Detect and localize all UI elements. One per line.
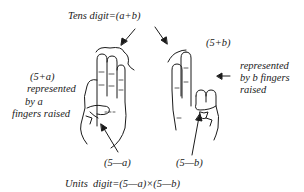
right-five-plus-b-label: (5+b) bbox=[206, 37, 231, 48]
left-five-plus-a-label: (5+a) bbox=[30, 71, 55, 82]
arrow-to-left-thumb-icon bbox=[101, 124, 118, 152]
right-five-minus-b-label: (5—b) bbox=[176, 157, 203, 168]
left-by-a-label: by a bbox=[25, 96, 43, 107]
right-brace-icon bbox=[168, 50, 186, 62]
tens-digit-label: Tens digit=(a+b) bbox=[68, 10, 140, 21]
right-hand-icon bbox=[172, 52, 219, 140]
finger-multiplication-illustration bbox=[0, 0, 304, 192]
left-brace-icon bbox=[96, 48, 134, 71]
left-hand-icon bbox=[81, 54, 126, 148]
right-by-b-fingers-label: by b fingers bbox=[240, 72, 290, 83]
left-represented-label: represented bbox=[27, 83, 76, 94]
arrow-to-left-hand-icon bbox=[121, 29, 135, 45]
units-digit-formula: Units digit=(5—a)×(5—b) bbox=[65, 178, 180, 189]
right-raised-label: raised bbox=[240, 84, 266, 95]
left-fingers-raised-label: fingers raised bbox=[12, 108, 70, 119]
right-represented-label: represented bbox=[240, 60, 289, 71]
arrow-to-right-fingers-icon bbox=[217, 73, 230, 79]
arrow-to-right-hand-icon bbox=[155, 27, 167, 44]
left-five-minus-a-label: (5—a) bbox=[104, 157, 131, 168]
arrow-to-right-thumb-icon bbox=[192, 114, 202, 155]
